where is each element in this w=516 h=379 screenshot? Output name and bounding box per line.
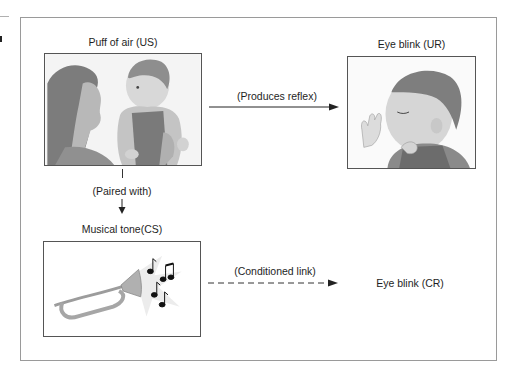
ur-label: Eye blink (UR)	[347, 38, 476, 50]
ur-illustration	[347, 56, 476, 169]
cs-illustration	[43, 241, 201, 337]
cr-label: Eye blink (CR)	[370, 277, 450, 289]
bugle-image	[44, 242, 200, 336]
arrow-right-icon	[209, 102, 341, 112]
produces-reflex-arrow	[209, 102, 341, 112]
conditioned-link-arrow	[208, 278, 340, 288]
conditioned-link-label: (Conditioned link)	[220, 265, 330, 277]
mother-baby-image	[45, 54, 201, 165]
paired-with-arrow	[117, 199, 127, 215]
baby-blink-image	[348, 57, 475, 168]
dashed-arrow-right-icon	[208, 278, 340, 288]
page-edge-line	[0, 16, 9, 17]
arrow-down-icon	[117, 199, 127, 215]
us-label: Puff of air (US)	[44, 36, 202, 48]
us-illustration	[44, 53, 202, 166]
paired-with-line	[122, 169, 123, 178]
clipped-text-fragment	[0, 36, 2, 42]
produces-reflex-label: (Produces reflex)	[222, 90, 332, 102]
paired-with-label: (Paired with)	[72, 185, 172, 197]
cs-label: Musical tone(CS)	[43, 223, 201, 235]
